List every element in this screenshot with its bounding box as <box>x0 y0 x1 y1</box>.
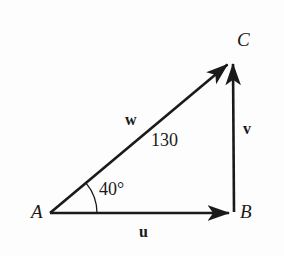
angle-label-40-degrees: 40° <box>99 180 124 198</box>
vector-label-v: v <box>243 121 251 137</box>
vector-diagram-figure: A B C u v w 130 40° <box>0 0 284 256</box>
vector-label-w: w <box>125 112 137 128</box>
vector-label-u: u <box>139 224 148 240</box>
magnitude-label-w: 130 <box>151 131 178 149</box>
vertex-label-b: B <box>240 202 252 221</box>
vertex-label-c: C <box>237 30 250 49</box>
vector-w-arrow <box>50 65 228 214</box>
vertex-label-a: A <box>31 202 43 221</box>
angle-arc-at-a <box>86 183 97 213</box>
vector-v-arrow <box>233 64 234 212</box>
